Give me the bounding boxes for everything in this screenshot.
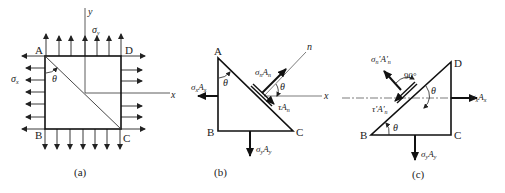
caption-c: (c) bbox=[412, 168, 425, 181]
sigma-x-label: σx bbox=[11, 73, 19, 85]
x-axis-label-right: x bbox=[323, 90, 329, 101]
sigma-n-an-label: σnAn bbox=[255, 67, 271, 78]
theta-label-b: θ bbox=[393, 122, 398, 133]
theta-arc-hyp bbox=[424, 86, 430, 108]
theta-label-hyp: θ bbox=[431, 85, 436, 96]
sigma-x-right-arrows bbox=[121, 56, 145, 129]
panel-c: B C D 90° σn'A'n τ'A'n σxAx σyAy θ θ (c) bbox=[342, 54, 487, 181]
n-axis-label: n bbox=[307, 41, 312, 52]
label-d: D bbox=[125, 44, 133, 56]
diagonal-ac bbox=[45, 56, 121, 129]
tau-an-label: τAn bbox=[278, 102, 290, 113]
label-b: B bbox=[207, 126, 214, 138]
panel-a: A D B C y σy σx θ (a) bbox=[11, 6, 170, 179]
panel-b: A B C x x n σxAx σnAn τAn σyAy θ θ (b) bbox=[170, 41, 329, 179]
theta-arc-b bbox=[386, 123, 389, 135]
sigma-y-ay-label: σyAy bbox=[421, 149, 437, 160]
label-b: B bbox=[360, 129, 367, 141]
sigma-x-ax-label: σxAx bbox=[191, 82, 207, 93]
label-c: C bbox=[123, 132, 130, 144]
theta-arc-normal bbox=[276, 84, 278, 96]
sigma-y-label: σy bbox=[92, 24, 100, 36]
label-c: C bbox=[454, 129, 461, 141]
label-d: D bbox=[454, 57, 462, 69]
sigma-x-left-arrows bbox=[22, 56, 45, 129]
label-a: A bbox=[214, 45, 222, 57]
stress-element-figure: A D B C y σy σx θ (a) A B C x x n σ bbox=[0, 0, 505, 193]
label-c: C bbox=[296, 126, 303, 138]
sigma-x-ax-label: σxAx bbox=[471, 92, 487, 103]
shear-bar bbox=[397, 84, 417, 103]
label-b: B bbox=[35, 129, 42, 141]
sigma-y-top-arrows bbox=[46, 34, 121, 56]
shear-arrow bbox=[253, 84, 274, 104]
theta-label: θ bbox=[52, 73, 57, 84]
tau-prime-label: τ'A'n bbox=[372, 104, 388, 115]
caption-b: (b) bbox=[214, 166, 227, 179]
x-axis-label-left: x bbox=[170, 89, 176, 100]
caption-a: (a) bbox=[74, 166, 87, 179]
right-angle-label: 90° bbox=[404, 71, 417, 81]
sigma-y-bottom-arrows bbox=[45, 129, 120, 149]
sigma-n-prime-label: σn'A'n bbox=[371, 54, 391, 65]
y-axis-label: y bbox=[87, 6, 93, 17]
label-a: A bbox=[35, 44, 43, 56]
theta-label-top: θ bbox=[223, 77, 228, 88]
theta-label-normal: θ bbox=[280, 81, 285, 92]
sigma-y-ay-label: σyAy bbox=[256, 144, 272, 155]
